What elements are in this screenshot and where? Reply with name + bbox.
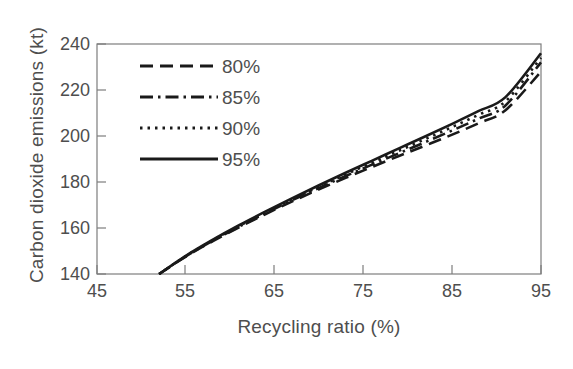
x-tick-label-95: 95 — [516, 281, 566, 302]
x-tick-label-75: 75 — [338, 281, 388, 302]
chart-figure: 240 220 200 180 160 140 45 55 65 75 85 9… — [0, 0, 573, 369]
legend-label-95: 95% — [222, 149, 260, 171]
x-tick-label-45: 45 — [72, 281, 122, 302]
x-axis-title: Recycling ratio (%) — [97, 316, 541, 338]
legend-label-80: 80% — [222, 56, 260, 78]
legend-label-90: 90% — [222, 118, 260, 140]
x-tick-label-85: 85 — [427, 281, 477, 302]
x-tick-label-65: 65 — [249, 281, 299, 302]
x-tick-label-55: 55 — [160, 281, 210, 302]
legend-label-85: 85% — [222, 87, 260, 109]
y-axis-title: Carbon dioxide emissions (kt) — [26, 10, 52, 300]
